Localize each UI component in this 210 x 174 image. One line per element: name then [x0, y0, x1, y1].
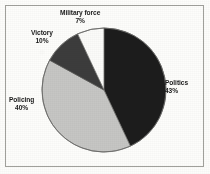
- slice-label-politics-value: 43%: [165, 87, 188, 95]
- slice-label-victory-name: Victory: [31, 29, 53, 36]
- pie-chart-figure: Military force 7% Victory 10% Policing 4…: [0, 0, 210, 174]
- pie-slices: [42, 28, 166, 152]
- slice-label-military-force: Military force 7%: [60, 9, 100, 24]
- slice-label-military-force-value: 7%: [60, 17, 100, 25]
- slice-label-victory-value: 10%: [31, 37, 53, 45]
- slice-label-military-force-name: Military force: [60, 9, 100, 16]
- slice-label-politics-name: Politics: [165, 79, 188, 86]
- slice-label-policing: Policing 40%: [9, 96, 34, 111]
- slice-label-victory: Victory 10%: [31, 29, 53, 44]
- slice-label-policing-value: 40%: [9, 104, 34, 112]
- slice-label-policing-name: Policing: [9, 96, 34, 103]
- slice-label-politics: Politics 43%: [165, 79, 188, 94]
